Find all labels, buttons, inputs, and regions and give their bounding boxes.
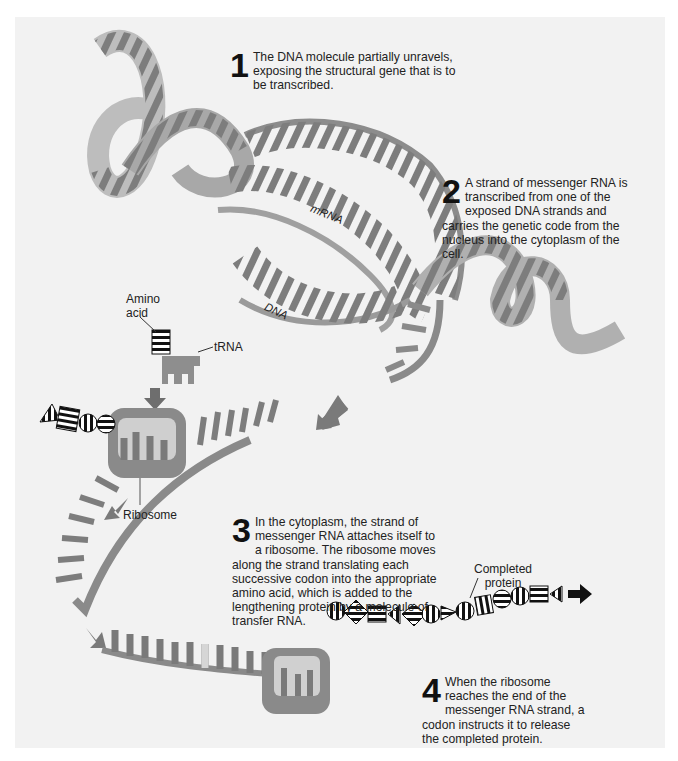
trna-molecule — [140, 317, 213, 384]
step-1: 1 The DNA molecule partially unravels, e… — [230, 50, 470, 93]
step-4: 4 When the ribosome reaches the end of t… — [422, 675, 587, 746]
step-2: 2 A strand of messenger RNA is transcrib… — [442, 176, 642, 261]
step-number: 4 — [422, 676, 441, 704]
step-number: 1 — [230, 51, 249, 79]
growing-polypeptide — [40, 404, 115, 433]
step-number: 2 — [442, 177, 461, 205]
down-arrow-icon — [144, 388, 166, 410]
label-amino-line2: acid — [126, 306, 160, 320]
label-amino-acid: Amino acid — [126, 292, 160, 320]
step-number: 3 — [232, 516, 251, 544]
label-completed-protein: Completed protein — [474, 562, 532, 590]
label-completed-line1: Completed — [474, 562, 532, 576]
step-text: When the ribosome reaches the end of the… — [422, 675, 584, 746]
arrow-right-icon — [568, 584, 592, 604]
small-arrow-icon — [86, 628, 106, 648]
step-text: The DNA molecule partially unravels, exp… — [253, 50, 456, 92]
step-text: A strand of messenger RNA is transcribed… — [442, 176, 628, 261]
mrna-strand-end — [102, 630, 280, 675]
label-amino-line1: Amino — [126, 292, 160, 306]
label-trna: tRNA — [214, 340, 243, 354]
label-completed-line2: protein — [474, 576, 532, 590]
protein-synthesis-illustration — [0, 0, 678, 761]
step-3: 3 In the cytoplasm, the strand of messen… — [232, 515, 442, 629]
label-ribosome: Ribosome — [123, 508, 177, 522]
ribosome — [108, 408, 186, 505]
step-text: In the cytoplasm, the strand of messenge… — [232, 515, 437, 628]
ribosome-releasing — [262, 648, 330, 714]
